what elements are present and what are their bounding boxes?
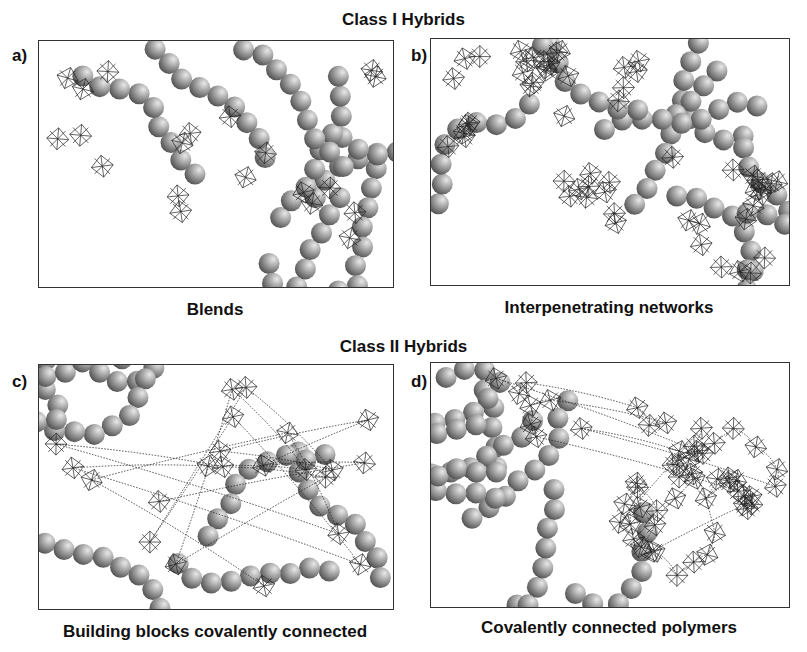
polymer-sphere [746, 96, 767, 117]
polymer-sphere [446, 419, 467, 440]
polymer-sphere [454, 363, 475, 380]
octahedron-cluster [454, 48, 475, 69]
polymer-sphere [691, 109, 712, 130]
polymer-sphere [555, 71, 576, 92]
polymer-sphere [129, 83, 150, 104]
polymer-sphere [527, 577, 548, 598]
polymer-sphere [547, 408, 568, 429]
polymer-sphere [633, 502, 654, 523]
covalent-linker [651, 505, 744, 552]
octahedron-cluster [91, 155, 113, 177]
class-1-title: Class I Hybrids [0, 10, 807, 30]
polymer-sphere [84, 424, 105, 445]
octahedron-cluster [754, 247, 776, 269]
polymer-sphere [594, 119, 615, 140]
polymer-sphere [148, 116, 169, 137]
octahedron-cluster [578, 175, 600, 197]
polymer-sphere [387, 141, 393, 162]
polymer-sphere [55, 365, 76, 383]
polymer-sphere [652, 109, 673, 130]
polymer-sphere [713, 129, 734, 150]
polymer-sphere [259, 253, 280, 274]
polymer-sphere [673, 70, 694, 91]
covalent-linker [526, 383, 637, 408]
octahedron-cluster [97, 61, 119, 83]
class-2-title: Class II Hybrids [0, 337, 807, 357]
polymer-sphere [39, 533, 56, 554]
polymer-sphere [733, 137, 754, 158]
polymer-sphere [109, 79, 130, 100]
polymer-sphere [535, 538, 556, 559]
polymer-sphere [322, 124, 343, 145]
polymer-sphere [370, 567, 391, 588]
polymer-sphere [189, 77, 210, 98]
panel-b-caption: Interpenetrating networks [430, 298, 788, 318]
polymer-sphere [627, 99, 648, 120]
octahedron-cluster [609, 512, 631, 534]
polymer-sphere [537, 518, 558, 539]
panel-d-letter: d) [411, 372, 427, 392]
octahedron-cluster [365, 66, 387, 88]
polymer-sphere [446, 458, 467, 479]
octahedron-cluster [638, 414, 660, 436]
polymer-sphere [328, 280, 349, 287]
polymer-sphere [352, 236, 373, 257]
octahedron-cluster [62, 457, 84, 479]
polymer-sphere [727, 92, 748, 113]
polymer-sphere [327, 505, 348, 526]
panel-c-building-blocks [38, 364, 394, 610]
panel-c-letter: c) [12, 372, 27, 392]
polymer-sphere [333, 156, 354, 177]
polymer-sphere [666, 185, 687, 206]
panel-c-caption: Building blocks covalently connected [30, 622, 400, 642]
polymer-sphere [331, 106, 352, 127]
polymer-sphere [135, 368, 156, 389]
panel-b-letter: b) [411, 46, 427, 66]
polymer-sphere [73, 544, 94, 565]
polymer-sphere [704, 198, 725, 219]
octahedron-cluster [148, 491, 170, 513]
covalent-linker [73, 465, 208, 468]
polymer-sphere [361, 178, 382, 199]
octahedron-cluster [740, 262, 762, 284]
polymer-sphere [624, 194, 645, 215]
polymer-sphere [207, 85, 228, 106]
polymer-sphere [221, 571, 242, 592]
polymer-sphere [46, 409, 67, 430]
octahedron-cluster [665, 488, 686, 509]
polymer-sphere [352, 216, 373, 237]
octahedron-cluster [710, 256, 732, 278]
polymer-sphere [297, 110, 318, 131]
polymer-sphere [465, 482, 486, 503]
polymer-sphere [565, 583, 586, 604]
polymer-sphere [486, 114, 507, 135]
polymer-sphere [262, 273, 283, 287]
octahedron-cluster [722, 159, 744, 181]
octahedron-cluster [594, 181, 616, 203]
polymer-sphere [671, 113, 692, 134]
polymer-sphere [107, 371, 128, 392]
covalent-linker [677, 562, 694, 575]
polymer-sphere [680, 51, 701, 72]
polymer-sphere [486, 462, 507, 483]
polymer-sphere [304, 159, 325, 180]
polymer-sphere [589, 91, 610, 112]
covalent-linker [733, 428, 755, 446]
polymer-sphere [112, 365, 133, 369]
polymer-sphere [64, 421, 85, 442]
polymer-sphere [319, 561, 340, 582]
polymer-sphere [295, 258, 316, 279]
octahedron-cluster [554, 105, 575, 126]
octahedron-cluster [357, 409, 378, 430]
polymer-sphere [127, 387, 148, 408]
octahedron-cluster [697, 544, 718, 565]
octahedron-cluster [70, 124, 92, 146]
covalent-linker [233, 417, 360, 565]
octahedron-cluster [690, 234, 712, 256]
octahedron-cluster [443, 68, 465, 90]
octahedron-cluster [553, 170, 575, 192]
polymer-sphere [465, 414, 486, 435]
polymer-sphere [233, 41, 254, 60]
polymer-sphere [645, 160, 666, 181]
octahedron-cluster [235, 167, 256, 188]
